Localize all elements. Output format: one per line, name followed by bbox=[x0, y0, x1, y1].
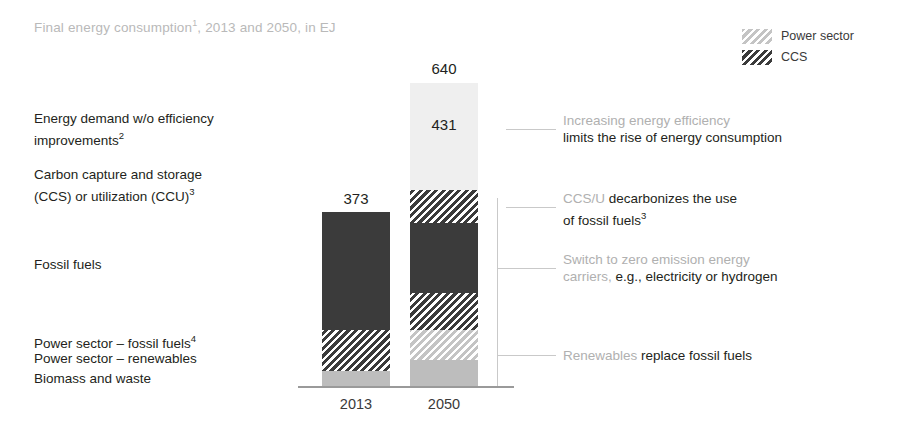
right-note-ccs-body2: of fossil fuels bbox=[563, 213, 641, 228]
bar-segment-2050-power-sector-fossil-fuels[interactable] bbox=[410, 293, 478, 330]
x-axis-line bbox=[298, 386, 514, 388]
right-note-ccs: CCS/U decarbonizes the use of fossil fue… bbox=[563, 190, 903, 229]
bar-segment-2050-biomass-and-waste[interactable] bbox=[410, 360, 478, 386]
right-note-ccs-footnote-marker: 3 bbox=[641, 210, 646, 221]
leader-line-efficiency bbox=[506, 129, 556, 130]
right-note-efficiency: Increasing energy efficiency limits the … bbox=[563, 112, 903, 146]
left-label-ccs: Carbon capture and storage (CCS) or util… bbox=[34, 166, 299, 205]
chart-root: Final energy consumption1, 2013 and 2050… bbox=[0, 0, 906, 431]
leader-line-ccs bbox=[506, 207, 556, 208]
bar-segment-2050-power-sector-renewables[interactable] bbox=[410, 330, 478, 360]
left-label-ccs-line2: (CCS) or utilization (CCU) bbox=[34, 189, 189, 204]
bar-segment-value-label-431: 431 bbox=[410, 116, 478, 133]
bracket-renewables-group bbox=[497, 328, 498, 386]
left-label-energy-demand-line1: Energy demand w/o efficiency bbox=[34, 111, 214, 126]
x-axis-tick-2013: 2013 bbox=[322, 396, 390, 412]
right-note-renewables-body: replace fossil fuels bbox=[637, 348, 752, 363]
left-label-power-sector-fossil: Power sector – fossil fuels4 bbox=[34, 330, 299, 352]
bar-segment-2050-fossil-fuels[interactable] bbox=[410, 223, 478, 293]
right-note-efficiency-body: limits the rise of energy consumption bbox=[563, 130, 782, 145]
left-label-energy-demand: Energy demand w/o efficiency improvement… bbox=[34, 110, 299, 149]
bar-segment-2013-biomass-and-waste[interactable] bbox=[322, 371, 390, 386]
right-note-renewables-emphasis: Renewables bbox=[563, 348, 637, 363]
right-note-ccs-emphasis: CCS/U bbox=[563, 191, 605, 206]
right-note-zero-emission-emphasis: Switch to zero emission energy bbox=[563, 252, 750, 267]
bar-total-label-2013: 373 bbox=[322, 190, 390, 207]
left-label-ccs-line1: Carbon capture and storage bbox=[34, 167, 202, 182]
left-label-fossil-fuels: Fossil fuels bbox=[34, 256, 299, 273]
right-note-zero-emission-emphasis2: carriers, bbox=[563, 269, 612, 284]
left-label-biomass-and-waste: Biomass and waste bbox=[34, 370, 299, 387]
right-note-ccs-body: decarbonizes the use bbox=[605, 191, 737, 206]
left-label-ccs-footnote-marker: 3 bbox=[189, 186, 194, 197]
left-label-fossil-fuels-line1: Fossil fuels bbox=[34, 257, 102, 272]
bar-segment-2050-energy-demand-wo-efficiency[interactable] bbox=[410, 83, 478, 190]
left-label-energy-demand-line2: improvements bbox=[34, 133, 119, 148]
right-note-zero-emission-body: e.g., electricity or hydrogen bbox=[612, 269, 778, 284]
bar-segment-2013-power-sector-fossil-fuels[interactable] bbox=[322, 330, 390, 371]
bar-total-label-2050: 640 bbox=[410, 60, 478, 77]
leader-line-renewables bbox=[497, 355, 556, 356]
left-label-biomass-and-waste-line1: Biomass and waste bbox=[34, 371, 151, 386]
left-label-power-sector-renewables-line1: Power sector – renewables bbox=[34, 351, 197, 366]
bar-segment-2050-ccs[interactable] bbox=[410, 190, 478, 223]
right-note-efficiency-emphasis: Increasing energy efficiency bbox=[563, 113, 730, 128]
left-label-power-sector-renewables: Power sector – renewables bbox=[34, 350, 299, 367]
x-axis-tick-2050: 2050 bbox=[410, 396, 478, 412]
left-label-power-sector-fossil-footnote-marker: 4 bbox=[191, 333, 196, 344]
right-note-renewables: Renewables replace fossil fuels bbox=[563, 347, 903, 364]
left-label-power-sector-fossil-line1: Power sector – fossil fuels bbox=[34, 336, 191, 351]
right-note-zero-emission: Switch to zero emission energy carriers,… bbox=[563, 251, 903, 285]
left-label-energy-demand-footnote-marker: 2 bbox=[119, 130, 124, 141]
leader-line-zero-emission bbox=[497, 268, 556, 269]
bar-segment-2013-fossil-fuels[interactable] bbox=[322, 212, 390, 330]
